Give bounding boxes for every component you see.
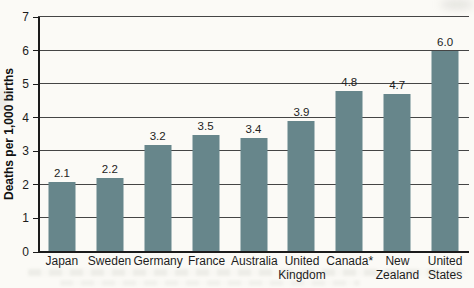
y-tick-label: 7 bbox=[5, 11, 29, 23]
x-axis-label-united-kingdom: United Kingdom bbox=[278, 255, 326, 282]
bar-united-kingdom bbox=[288, 121, 315, 252]
bar-slot: 3.5 bbox=[182, 17, 230, 252]
bar-slot: 2.2 bbox=[86, 17, 134, 252]
y-tick-label: 3 bbox=[5, 145, 29, 157]
bar-slot: 3.2 bbox=[134, 17, 182, 252]
x-axis-label-japan: Japan bbox=[38, 255, 86, 282]
y-tick-label: 2 bbox=[5, 179, 29, 191]
bar-slot: 4.8 bbox=[325, 17, 373, 252]
bars-container: 2.12.23.23.53.43.94.84.76.0 bbox=[38, 17, 469, 252]
bar-slot: 3.4 bbox=[230, 17, 278, 252]
bar-value-label: 6.0 bbox=[437, 36, 453, 48]
y-tick-label: 4 bbox=[5, 112, 29, 124]
bar-value-label: 3.9 bbox=[293, 106, 309, 118]
bar-slot: 2.1 bbox=[38, 17, 86, 252]
bar-slot: 4.7 bbox=[373, 17, 421, 252]
scan-artifact bbox=[440, 0, 474, 9]
y-tick-label: 5 bbox=[5, 78, 29, 90]
bar-value-label: 3.5 bbox=[198, 120, 214, 132]
bar-united-states bbox=[432, 51, 459, 252]
x-axis-label-france: France bbox=[183, 255, 231, 282]
bar-value-label: 3.4 bbox=[246, 123, 262, 135]
bar-value-label: 4.8 bbox=[341, 76, 357, 88]
x-axis-label-new-zealand: New Zealand bbox=[374, 255, 422, 282]
y-tick-label: 0 bbox=[5, 246, 29, 258]
bar-sweden bbox=[96, 178, 123, 252]
bar-new-zealand bbox=[384, 94, 411, 252]
bar-value-label: 4.7 bbox=[389, 79, 405, 91]
bar-value-label: 2.1 bbox=[54, 167, 70, 179]
bar-japan bbox=[48, 182, 75, 253]
x-axis-label-australia: Australia bbox=[230, 255, 278, 282]
bar-australia bbox=[240, 138, 267, 252]
bar-canada bbox=[336, 91, 363, 252]
bar-slot: 3.9 bbox=[277, 17, 325, 252]
x-axis-label-germany: Germany bbox=[133, 255, 182, 282]
bar-germany bbox=[144, 145, 171, 252]
x-axis-line bbox=[38, 251, 469, 253]
bar-value-label: 2.2 bbox=[102, 163, 118, 175]
x-axis-labels: JapanSwedenGermanyFranceAustraliaUnited … bbox=[38, 255, 469, 282]
bar-slot: 6.0 bbox=[421, 17, 469, 252]
x-axis-label-united-states: United States bbox=[421, 255, 469, 282]
y-tick-label: 6 bbox=[5, 45, 29, 57]
bar-france bbox=[192, 135, 219, 253]
x-axis-label-canada: Canada* bbox=[326, 255, 374, 282]
y-axis-line bbox=[38, 17, 40, 252]
x-axis-label-sweden: Sweden bbox=[86, 255, 134, 282]
scanned-bar-chart-page: Deaths per 1,000 births 2.12.23.23.53.43… bbox=[0, 0, 474, 288]
y-tick-label: 1 bbox=[5, 212, 29, 224]
bar-value-label: 3.2 bbox=[150, 130, 166, 142]
plot-area: 2.12.23.23.53.43.94.84.76.0 bbox=[38, 17, 469, 252]
